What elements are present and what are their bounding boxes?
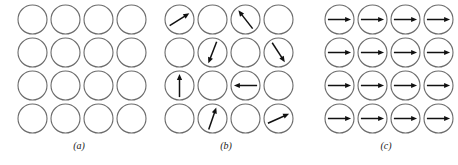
domain-circle	[198, 71, 227, 100]
domain-circle	[18, 5, 47, 34]
spin-cell	[165, 104, 194, 133]
domain-circle	[51, 71, 80, 100]
domain-circle	[84, 38, 113, 67]
spin-cell	[424, 5, 453, 34]
domain-circle	[117, 38, 146, 67]
domain-circle	[51, 38, 80, 67]
spin-cell	[391, 5, 420, 34]
spin-cell	[84, 5, 113, 34]
spin-cell	[18, 5, 47, 34]
domain-circle	[198, 5, 227, 34]
spin-cell	[84, 71, 113, 100]
spin-cell	[264, 104, 293, 133]
panel-c	[320, 0, 458, 138]
spin-cell	[51, 38, 80, 67]
panel-b-grid	[160, 0, 298, 138]
domain-circle	[18, 104, 47, 133]
panel-a	[13, 0, 151, 138]
spin-cell	[358, 5, 387, 34]
domain-circle	[18, 38, 47, 67]
spin-cell	[51, 104, 80, 133]
spin-cell	[117, 5, 146, 34]
spin-cell	[117, 38, 146, 67]
domain-circle	[18, 71, 47, 100]
panel-b-caption: (b)	[160, 140, 292, 151]
domain-circle	[165, 38, 194, 67]
spin-cell	[264, 5, 293, 34]
domain-circle	[84, 104, 113, 133]
spin-cell	[117, 71, 146, 100]
spin-cell	[424, 71, 453, 100]
spin-cell	[231, 5, 260, 34]
spin-cell	[165, 5, 194, 34]
spin-cell	[165, 38, 194, 67]
domain-circle	[51, 104, 80, 133]
spin-cell	[358, 104, 387, 133]
spin-cell	[198, 38, 227, 67]
panel-a-caption: (a)	[13, 140, 145, 151]
spin-cell	[18, 38, 47, 67]
spin-cell	[198, 104, 227, 133]
domain-circle	[165, 104, 194, 133]
panel-a-grid	[13, 0, 151, 138]
spin-cell	[325, 104, 354, 133]
panel-c-grid	[320, 0, 458, 138]
spin-cell	[117, 104, 146, 133]
panel-c-caption: (c)	[320, 140, 452, 151]
spin-cell	[84, 104, 113, 133]
spin-cell	[51, 5, 80, 34]
spin-cell	[231, 104, 260, 133]
domain-circle	[84, 5, 113, 34]
domain-circle	[231, 38, 260, 67]
spin-cell	[391, 71, 420, 100]
spin-cell	[424, 38, 453, 67]
domain-circle	[84, 71, 113, 100]
spin-cell	[391, 104, 420, 133]
spin-cell	[231, 71, 260, 100]
panel-b	[160, 0, 298, 138]
spin-cell	[84, 38, 113, 67]
spin-cell	[264, 71, 293, 100]
domain-circle	[264, 71, 293, 100]
spin-cell	[325, 5, 354, 34]
spin-cell	[18, 104, 47, 133]
domain-circle	[117, 71, 146, 100]
spin-cell	[18, 71, 47, 100]
spin-cell	[51, 71, 80, 100]
spin-cell	[358, 71, 387, 100]
domain-circle	[117, 5, 146, 34]
spin-cell	[424, 104, 453, 133]
spin-cell	[165, 71, 194, 100]
spin-cell	[358, 38, 387, 67]
spin-cell	[264, 38, 293, 67]
domain-circle	[264, 5, 293, 34]
domain-circle	[51, 5, 80, 34]
domain-circle	[231, 104, 260, 133]
spin-cell	[198, 5, 227, 34]
spin-cell	[325, 71, 354, 100]
spin-cell	[325, 38, 354, 67]
domain-circle	[117, 104, 146, 133]
spin-cell	[198, 71, 227, 100]
spin-cell	[391, 38, 420, 67]
spin-cell	[231, 38, 260, 67]
